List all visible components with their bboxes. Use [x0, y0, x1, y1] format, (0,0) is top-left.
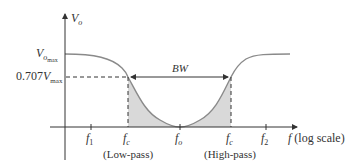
low-pass-caption: (Low-pass) — [103, 148, 153, 161]
high-pass-caption: (High-pass) — [204, 148, 256, 161]
tick-label-f2: f2 — [261, 131, 268, 147]
v707-label: 0.707Vmax — [16, 69, 63, 85]
tick-label-fo: fo — [175, 131, 182, 147]
tick-label-fc-low: fc — [123, 131, 130, 147]
low-pass-shaded-region — [128, 77, 180, 127]
x-axis-label: f (log scale) — [288, 131, 345, 145]
filter-response-diagram: BW Vo Vomax 0.707Vmax f1 fc fo fc f2 f (… — [0, 0, 351, 164]
tick-label-fc-high: fc — [226, 131, 233, 147]
high-pass-shaded-region — [180, 77, 231, 127]
bandwidth-label: BW — [172, 62, 189, 74]
vmax-label: Vomax — [36, 46, 58, 63]
y-axis-label: Vo — [71, 11, 82, 27]
tick-label-f1: f1 — [86, 131, 93, 147]
